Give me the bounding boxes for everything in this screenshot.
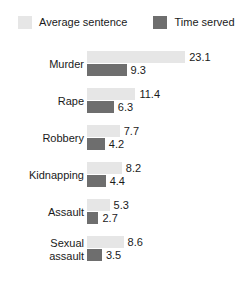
bar-row: 5.3: [87, 199, 129, 211]
legend-item-time-served: Time served: [153, 14, 234, 30]
category-label: Rape: [0, 83, 84, 120]
legend-item-average-sentence: Average sentence: [18, 14, 127, 30]
bar: [87, 64, 127, 76]
legend-swatch-time-served: [153, 16, 167, 29]
category-label-line: Kidnapping: [29, 169, 84, 182]
legend-label-time-served: Time served: [174, 16, 234, 29]
bar: [87, 51, 185, 63]
bar-row: 2.7: [87, 212, 118, 224]
legend-swatch-average-sentence: [18, 16, 32, 29]
category-label-line: Robbery: [42, 132, 84, 145]
bar-row: 8.2: [87, 162, 141, 174]
bar: [87, 125, 120, 137]
bar-group-bars: 8.63.5: [87, 231, 238, 268]
bar: [87, 162, 122, 174]
bar: [87, 236, 124, 248]
bar-row: 9.3: [87, 64, 146, 76]
bar-value-label: 6.3: [118, 101, 133, 113]
bar-value-label: 23.1: [189, 51, 210, 63]
bar: [87, 175, 106, 187]
bar-row: 7.7: [87, 125, 139, 137]
bar-row: 4.2: [87, 138, 124, 150]
bar-row: 23.1: [87, 51, 211, 63]
bar-group: Murder23.19.3: [0, 46, 238, 83]
category-label: Murder: [0, 46, 84, 83]
bar-value-label: 2.7: [102, 212, 117, 224]
bar-group-bars: 11.46.3: [87, 83, 238, 120]
plot-area: Murder23.19.3Rape11.46.3Robbery7.74.2Kid…: [0, 46, 238, 293]
bar-value-label: 3.5: [106, 249, 121, 261]
bar: [87, 88, 135, 100]
bar: [87, 199, 110, 211]
category-label: Assault: [0, 194, 84, 231]
category-label-line: Rape: [58, 95, 84, 108]
bar-value-label: 9.3: [131, 64, 146, 76]
category-label-line: Assault: [48, 206, 84, 219]
bar-group: Rape11.46.3: [0, 83, 238, 120]
bar-row: 4.4: [87, 175, 125, 187]
bar-group: Robbery7.74.2: [0, 120, 238, 157]
chart-legend: Average sentence Time served: [0, 14, 238, 30]
category-label: Sexualassault: [0, 231, 84, 268]
bar-row: 11.4: [87, 88, 160, 100]
bar-group-bars: 5.32.7: [87, 194, 238, 231]
bar-group-bars: 23.19.3: [87, 46, 238, 83]
bar-group-bars: 7.74.2: [87, 120, 238, 157]
bar-row: 3.5: [87, 249, 121, 261]
bar-value-label: 4.4: [110, 175, 125, 187]
bar-group: Sexualassault8.63.5: [0, 231, 238, 268]
bar-row: 8.6: [87, 236, 143, 248]
bar-row: 6.3: [87, 101, 133, 113]
bar-value-label: 8.6: [128, 236, 143, 248]
category-label: Kidnapping: [0, 157, 84, 194]
legend-label-average-sentence: Average sentence: [39, 16, 127, 29]
bar-value-label: 8.2: [126, 162, 141, 174]
bar-group: Kidnapping8.24.4: [0, 157, 238, 194]
bar-value-label: 4.2: [109, 138, 124, 150]
bar-group-bars: 8.24.4: [87, 157, 238, 194]
bar-value-label: 11.4: [139, 88, 160, 100]
bar: [87, 249, 102, 261]
category-label: Robbery: [0, 120, 84, 157]
grouped-bar-chart: Average sentence Time served Murder23.19…: [0, 0, 238, 293]
category-label-line: Murder: [49, 58, 84, 71]
bar: [87, 138, 105, 150]
bar-value-label: 7.7: [124, 125, 139, 137]
bar: [87, 212, 98, 224]
bar-value-label: 5.3: [114, 199, 129, 211]
bar: [87, 101, 114, 113]
category-label-line: Sexual: [50, 237, 84, 250]
bar-group: Assault5.32.7: [0, 194, 238, 231]
category-label-line: assault: [49, 250, 84, 263]
